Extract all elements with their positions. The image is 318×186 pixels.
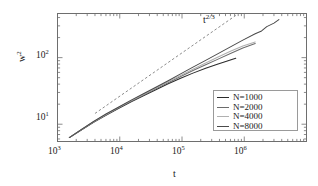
legend-item-n4000: N=4000 bbox=[217, 112, 297, 121]
x-tick-label-1e4: 104 bbox=[110, 146, 123, 156]
legend-swatch-n8000 bbox=[217, 126, 229, 127]
legend-item-n1000: N=1000 bbox=[217, 93, 297, 102]
figure-log-log-roughness-plot: 103 104 105 106 101 102 t w2 t2/3 N=1000… bbox=[0, 0, 318, 186]
legend-swatch-n1000 bbox=[217, 97, 229, 98]
y-axis-title: w2 bbox=[16, 51, 27, 62]
y-tick-label-1e1: 101 bbox=[36, 112, 49, 122]
x-axis-title: t bbox=[173, 168, 176, 179]
x-tick-label-1e5: 105 bbox=[172, 146, 185, 156]
y-tick-label-1e2: 102 bbox=[36, 50, 49, 60]
x-tick-label-1e6: 106 bbox=[234, 146, 247, 156]
legend-label-n1000: N=1000 bbox=[233, 93, 263, 102]
legend-box: N=1000 N=2000 N=4000 N=8000 bbox=[213, 90, 298, 131]
legend-swatch-n2000 bbox=[217, 107, 229, 108]
legend-swatch-n4000 bbox=[217, 116, 229, 117]
legend-label-n4000: N=4000 bbox=[233, 112, 263, 121]
x-tick-label-1e3: 103 bbox=[48, 146, 61, 156]
legend-label-n8000: N=8000 bbox=[233, 122, 263, 131]
legend-item-n8000: N=8000 bbox=[217, 122, 297, 131]
slope-annotation-label: t2/3 bbox=[203, 14, 215, 25]
